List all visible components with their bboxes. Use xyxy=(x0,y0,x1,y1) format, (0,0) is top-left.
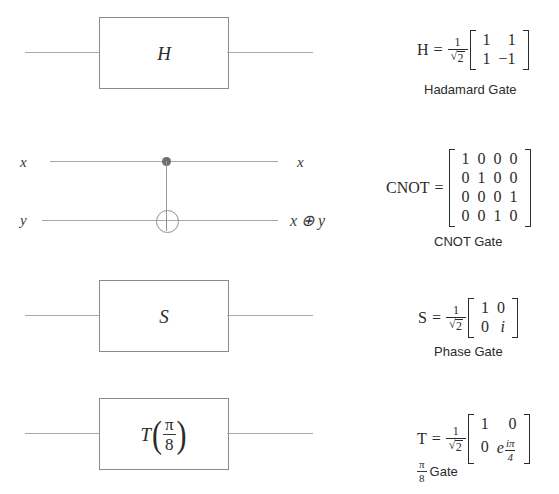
t-gate-arg-denominator: 8 xyxy=(163,434,176,453)
cnot-formula: CNOT = 1 0 0 0 0 1 0 0 0 0 0 1 0 0 1 0 xyxy=(386,149,531,227)
cnot-input-label-x: x xyxy=(20,155,27,170)
hadamard-caption-text: Hadamard Gate xyxy=(424,83,517,96)
matrix-cell: 1 xyxy=(495,31,520,50)
phase-formula: S = 1 2 1 0 0 i xyxy=(418,298,518,338)
cnot-input-label-y: y xyxy=(20,213,27,228)
t-gate-exp-base: e xyxy=(497,439,504,456)
xor-target-crosshair xyxy=(166,210,167,231)
t-gate-paren-open: ( xyxy=(152,415,162,453)
t-gate-argument-fraction: π 8 xyxy=(163,416,176,453)
t-gate-exponent-fraction: iπ4 xyxy=(504,438,517,463)
t-gate-wire-right xyxy=(227,433,313,434)
t-gate-label: T ( π 8 ) xyxy=(140,416,187,453)
cnot-output-label-xor: x ⊕ y xyxy=(290,213,325,229)
t-gate-exponent-denominator: 4 xyxy=(505,450,515,463)
xor-target-icon[interactable] xyxy=(156,210,179,233)
bracket-right-icon xyxy=(523,30,529,70)
matrix-cell: 0 xyxy=(474,150,490,169)
hadamard-wire-right xyxy=(227,52,313,53)
sqrt-icon: 2 xyxy=(449,440,463,453)
t-gate-formula: T = 1 2 1 0 0 eiπ4 xyxy=(417,414,530,464)
hadamard-formula: H = 1 2 1 1 1 −1 xyxy=(417,30,529,70)
t-gate-scalar-numerator: 1 xyxy=(450,425,462,438)
t-gate-formula-name: T xyxy=(417,431,427,447)
cnot-equals-sign: = xyxy=(435,180,444,196)
bracket-right-icon xyxy=(512,298,518,338)
t-gate-paren-close: ) xyxy=(177,415,187,453)
hadamard-gate-label: H xyxy=(157,44,171,63)
matrix-cell: 0 xyxy=(458,188,474,207)
bracket-right-icon xyxy=(524,414,530,464)
hadamard-gate-box[interactable]: H xyxy=(99,17,229,89)
matrix-cell: 0 xyxy=(493,299,509,318)
phase-caption: Phase Gate xyxy=(434,345,503,358)
matrix-cell: 0 xyxy=(506,150,522,169)
t-gate-arg-numerator: π xyxy=(163,416,176,434)
cnot-matrix: 1 0 0 0 0 1 0 0 0 0 0 1 0 0 1 0 xyxy=(449,149,531,227)
matrix-cell: 1 xyxy=(477,415,493,434)
phase-wire-right xyxy=(227,315,313,316)
cnot-input-x-text: x xyxy=(20,154,27,170)
sqrt-icon: 2 xyxy=(449,319,463,332)
matrix-cell: 0 xyxy=(506,207,522,226)
t-gate-caption-fraction: π 8 xyxy=(417,459,427,484)
hadamard-matrix: 1 1 1 −1 xyxy=(470,30,529,70)
t-gate-scalar-fraction: 1 2 xyxy=(446,425,466,453)
phase-caption-text: Phase Gate xyxy=(434,345,503,358)
matrix-cell: 1 xyxy=(479,50,495,69)
hadamard-caption: Hadamard Gate xyxy=(424,83,517,96)
hadamard-formula-name: H xyxy=(417,42,429,58)
hadamard-equals-sign: = xyxy=(434,42,443,58)
t-gate-caption-numerator: π xyxy=(417,459,427,471)
cnot-input-y-text: y xyxy=(20,212,27,228)
matrix-cell: 0 xyxy=(477,318,493,337)
phase-radicand: 2 xyxy=(455,319,463,332)
cnot-caption: CNOT Gate xyxy=(434,235,502,248)
matrix-cell: 0 xyxy=(477,438,493,463)
matrix-cell: 1 xyxy=(474,169,490,188)
matrix-cell: 1 xyxy=(479,31,495,50)
matrix-cell: 1 xyxy=(506,188,522,207)
matrix-cell: 0 xyxy=(493,415,521,434)
matrix-cell: 0 xyxy=(458,169,474,188)
matrix-cell: 1 xyxy=(490,207,506,226)
cnot-output-label-x: x xyxy=(297,155,304,170)
cnot-caption-text: CNOT Gate xyxy=(434,235,502,248)
matrix-cell-exponential: eiπ4 xyxy=(493,438,521,463)
matrix-cell: 0 xyxy=(490,150,506,169)
t-gate-caption-text: Gate xyxy=(430,465,458,478)
cnot-vertical-link xyxy=(166,161,167,210)
matrix-cell: 0 xyxy=(474,188,490,207)
hadamard-scalar-numerator: 1 xyxy=(452,36,464,49)
hadamard-matrix-grid: 1 1 1 −1 xyxy=(476,30,523,70)
phase-matrix: 1 0 0 i xyxy=(468,298,518,338)
hadamard-scalar-denominator: 2 xyxy=(448,49,468,64)
phase-wire-left xyxy=(25,315,100,316)
matrix-cell: 1 xyxy=(458,150,474,169)
t-gate-box[interactable]: T ( π 8 ) xyxy=(99,398,229,470)
cnot-formula-name: CNOT xyxy=(386,180,430,196)
matrix-cell: 0 xyxy=(506,169,522,188)
phase-scalar-numerator: 1 xyxy=(450,304,462,317)
phase-gate-label: S xyxy=(159,307,169,326)
matrix-cell: −1 xyxy=(495,50,520,69)
matrix-cell: i xyxy=(493,318,509,337)
t-gate-matrix: 1 0 0 eiπ4 xyxy=(468,414,530,464)
cnot-matrix-grid: 1 0 0 0 0 1 0 0 0 0 0 1 0 0 1 0 xyxy=(455,149,525,227)
matrix-cell: 1 xyxy=(477,299,493,318)
matrix-cell: 0 xyxy=(474,207,490,226)
bracket-right-icon xyxy=(525,149,531,227)
t-gate-caption-denominator: 8 xyxy=(417,471,427,484)
hadamard-scalar-fraction: 1 2 xyxy=(448,36,468,64)
cnot-output-xor-text: x ⊕ y xyxy=(290,212,325,229)
phase-gate-box[interactable]: S xyxy=(99,280,229,352)
phase-scalar-denominator: 2 xyxy=(446,317,466,332)
t-gate-wire-left xyxy=(25,433,100,434)
phase-formula-name: S xyxy=(418,310,427,326)
phase-equals-sign: = xyxy=(432,310,441,326)
hadamard-wire-left xyxy=(25,52,100,53)
matrix-cell: 0 xyxy=(490,188,506,207)
cnot-output-x-text: x xyxy=(297,154,304,170)
sqrt-icon: 2 xyxy=(451,51,465,64)
t-gate-scalar-denominator: 2 xyxy=(446,438,466,453)
